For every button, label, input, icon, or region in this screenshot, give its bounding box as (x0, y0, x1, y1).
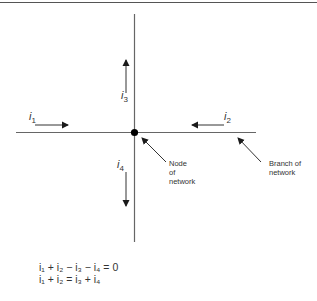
branch-annotation: Branch of network (269, 159, 301, 177)
label-i2: i2 (224, 110, 231, 125)
node-pointer-arrow-icon (142, 138, 166, 162)
branch-pointer-arrow-icon (238, 138, 261, 162)
node-annotation-line: Node (169, 159, 195, 168)
node-annotation-line: of (169, 168, 195, 177)
node-dot (131, 129, 138, 136)
branch-annotation-line: network (269, 168, 301, 177)
equation-kcl-balance: i₁ + i₂ = i₃ + i₄ (39, 273, 100, 285)
label-i1: i1 (29, 110, 36, 125)
network-diagram (0, 0, 317, 301)
node-annotation: Node of network (169, 159, 195, 186)
equation-kcl-sum: i₁ + i₂ − i₃ − i₄ = 0 (39, 261, 118, 273)
label-i3: i3 (121, 89, 128, 104)
label-i4: i4 (117, 158, 124, 173)
node-annotation-line: network (169, 177, 195, 186)
branch-annotation-line: Branch of (269, 159, 301, 168)
